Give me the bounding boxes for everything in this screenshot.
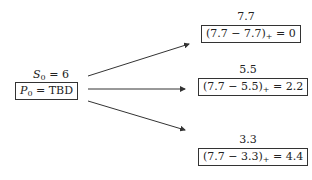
arrow-down	[88, 101, 185, 130]
branch-up-payoff-box: (7.7 − 7.7)+ = 0	[201, 25, 301, 43]
branch-down-price: 3.3	[200, 133, 296, 146]
root-price-label: S0 = 6	[26, 68, 76, 81]
arrow-up	[88, 44, 189, 76]
branch-middle-price: 5.5	[200, 63, 296, 76]
branch-up-price: 7.7	[200, 10, 292, 23]
root-payoff-box: P0 = TBD	[15, 82, 78, 100]
branch-middle-payoff-box: (7.7 − 5.5)+ = 2.2	[198, 78, 308, 96]
branch-down-payoff-box: (7.7 − 3.3)+ = 4.4	[198, 148, 308, 166]
